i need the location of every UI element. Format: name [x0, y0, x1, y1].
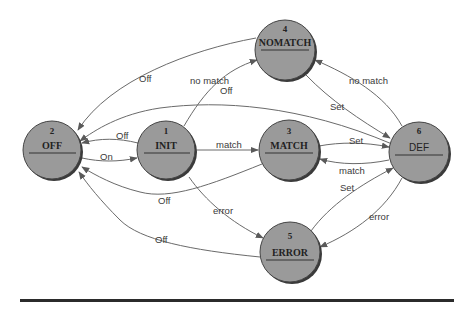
edge-nomatch-to-off [78, 38, 256, 130]
label-nomatch-off: Off [139, 73, 152, 84]
label-def-off: Off [220, 85, 233, 96]
label-match-set: Set [349, 135, 364, 146]
label-init-match: match [216, 139, 242, 150]
label-def-nomatch: no match [349, 75, 388, 86]
label-def-error: error [369, 211, 389, 222]
node-match: 3 MATCH [259, 120, 321, 182]
node-name: DEF [409, 142, 429, 153]
label-nomatch-set: Set [330, 101, 345, 112]
node-error: 5 ERROR [260, 222, 322, 284]
diagram-svg: Off no match Off Off On match Off Off er… [0, 0, 473, 315]
node-number: 3 [287, 126, 292, 136]
node-name: OFF [42, 140, 62, 151]
node-nomatch: 4 NOMATCH [255, 20, 317, 82]
node-name: MATCH [270, 140, 308, 151]
label-error-set: Set [340, 182, 355, 193]
node-init: 1 INIT [137, 121, 197, 181]
node-number: 1 [164, 126, 169, 136]
label-init-error: error [213, 205, 233, 216]
edge-def-to-match [320, 159, 389, 164]
state-diagram: Off no match Off Off On match Off Off er… [0, 0, 473, 315]
label-error-off: Off [155, 234, 168, 245]
node-number: 6 [417, 126, 422, 136]
edge-def-to-nomatch [315, 60, 402, 126]
node-name: NOMATCH [259, 37, 312, 48]
node-number: 2 [50, 126, 55, 136]
node-name: INIT [155, 140, 177, 151]
node-number: 4 [283, 24, 288, 34]
node-name: ERROR [272, 247, 309, 258]
bottom-rule [20, 299, 454, 302]
label-def-match: match [339, 165, 365, 176]
edge-def-to-error [320, 178, 402, 247]
node-number: 5 [288, 231, 293, 241]
node-def: 6 DEF [389, 122, 451, 184]
label-init-off: Off [116, 130, 129, 141]
label-off-on: On [100, 151, 113, 162]
label-match-off: Off [158, 195, 171, 206]
node-off: 2 OFF [23, 121, 83, 181]
edge-init-to-off [82, 139, 138, 143]
